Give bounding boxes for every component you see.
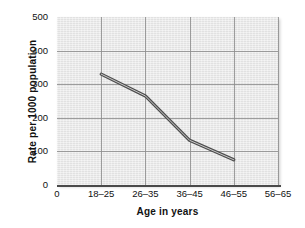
- x-axis-tick-label: 26–35: [122, 188, 168, 199]
- x-axis-tick-label: 56–65: [255, 188, 301, 199]
- y-axis-tick-label: 200: [18, 113, 48, 123]
- y-axis-tick-label: 100: [18, 146, 48, 156]
- y-axis-tick-label: 300: [18, 79, 48, 89]
- x-axis-title: Age in years: [57, 206, 278, 217]
- y-axis-tick-label: 400: [18, 46, 48, 56]
- x-axis-tick-label: 46–55: [211, 188, 257, 199]
- x-axis-tick-label: 18–25: [78, 188, 124, 199]
- gridline-vertical: [278, 17, 279, 185]
- x-axis-line: [57, 185, 281, 187]
- data-line-svg: [57, 17, 278, 185]
- plot-area: [57, 17, 278, 185]
- y-axis-tick-label: 500: [18, 12, 48, 22]
- data-series-line: [101, 74, 234, 160]
- x-axis-tick-label: 36–45: [167, 188, 213, 199]
- x-axis-tick-labels: 018–2526–3536–4546–5556–65: [0, 188, 305, 202]
- x-axis-tick-label: 0: [34, 188, 80, 199]
- line-chart-figure: Rate per 1000 population 500400300200100…: [0, 0, 305, 228]
